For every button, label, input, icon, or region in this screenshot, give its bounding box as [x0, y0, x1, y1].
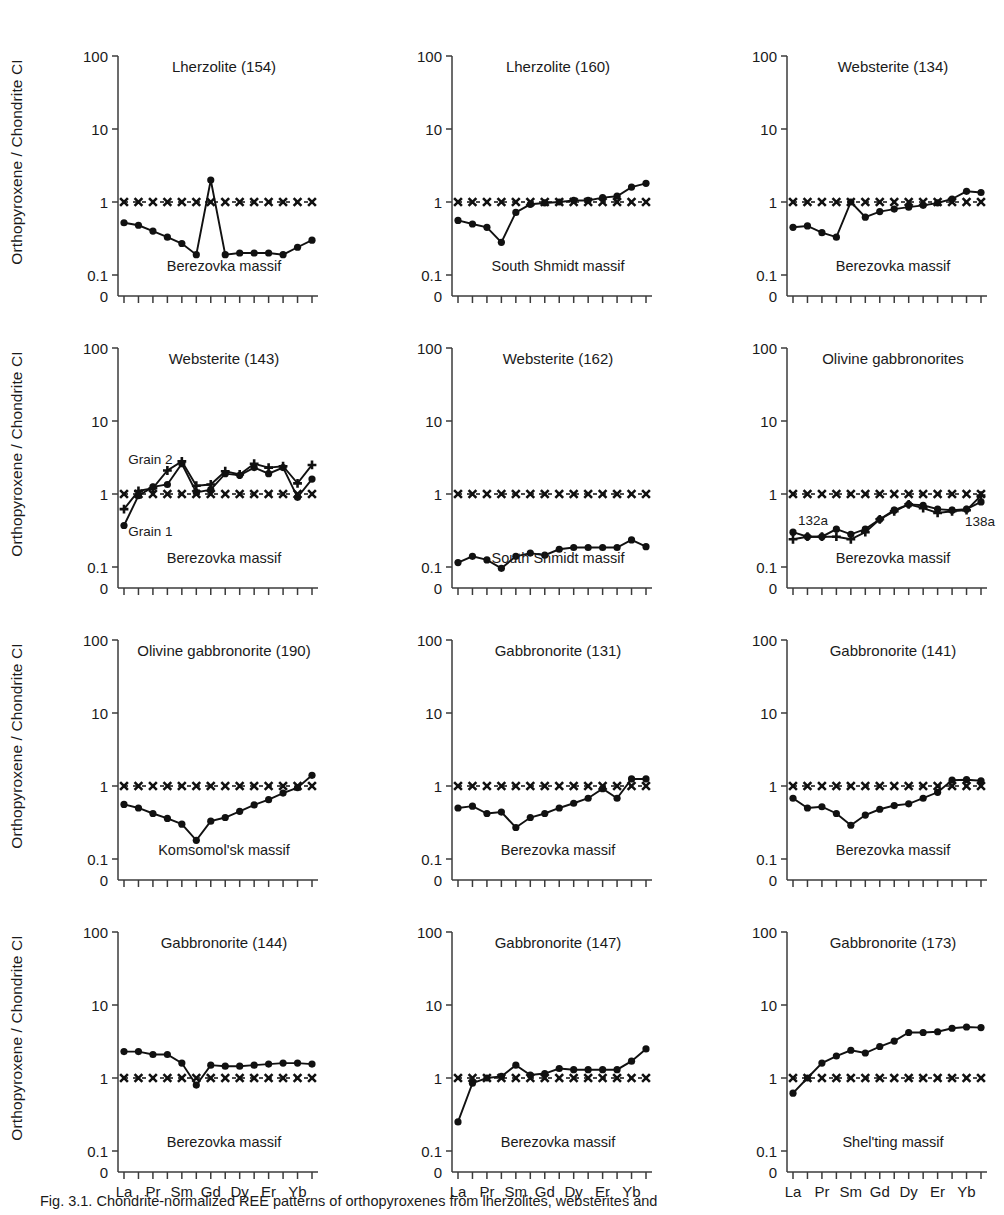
reference-line-series — [454, 490, 650, 498]
chart-panel: Orthopyroxene / Chondrite CI1001010.10Ga… — [0, 904, 334, 1204]
panel-massif-label: Berezovka massif — [836, 842, 951, 858]
panel-massif-label: South Shmidt massif — [492, 258, 626, 274]
y-tick-label: 0.1 — [756, 559, 777, 576]
y-tick-label: 10 — [425, 121, 442, 138]
y-tick-label: 10 — [425, 997, 442, 1014]
panel-plot: 1001010.10Websterite (143)Berezovka mass… — [0, 320, 334, 612]
y-tick-label: 1 — [769, 778, 777, 795]
panel-massif-label: Berezovka massif — [836, 258, 951, 274]
y-axis-title-text: Orthopyroxene / Chondrite CI — [8, 351, 26, 556]
panel-annotation: Grain 2 — [128, 452, 172, 467]
y-tick-label-zero: 0 — [769, 1164, 777, 1181]
y-tick-label-zero: 0 — [434, 288, 442, 305]
y-tick-label: 100 — [83, 632, 108, 649]
y-tick-label: 0.1 — [87, 851, 108, 868]
panel-massif-label: Berezovka massif — [501, 1134, 616, 1150]
y-tick-label: 100 — [417, 340, 442, 357]
panel-massif-label: Berezovka massif — [167, 1134, 282, 1150]
y-tick-label: 100 — [83, 48, 108, 65]
panel-title: Lherzolite (160) — [506, 58, 610, 75]
y-tick-label: 10 — [91, 997, 108, 1014]
y-tick-label-zero: 0 — [100, 580, 108, 597]
chart-panel: Orthopyroxene / Chondrite CI1001010.10We… — [0, 320, 334, 612]
chart-panel: 1001010.10Lherzolite (160)South Shmidt m… — [334, 28, 669, 320]
panel-plot: 1001010.10Gabbronorite (144)Berezovka ma… — [0, 904, 334, 1204]
chart-panel: 1001010.10Gabbronorite (173)Shel'ting ma… — [669, 904, 1004, 1204]
reference-line-series — [120, 782, 316, 790]
y-tick-label-zero: 0 — [434, 1164, 442, 1181]
y-tick-label-zero: 0 — [100, 872, 108, 889]
panel-title: Lherzolite (154) — [172, 58, 276, 75]
y-tick-label: 0.1 — [421, 267, 442, 284]
panel-plot: 1001010.10Lherzolite (160)South Shmidt m… — [334, 28, 668, 320]
panel-massif-label: South Shmidt massif — [492, 550, 626, 566]
panel-title: Gabbronorite (141) — [830, 642, 957, 659]
y-tick-label: 0.1 — [421, 851, 442, 868]
y-tick-label: 0.1 — [756, 1143, 777, 1160]
y-axis-title-text: Orthopyroxene / Chondrite CI — [8, 59, 26, 264]
y-tick-label: 10 — [91, 705, 108, 722]
reference-line-series — [454, 198, 650, 206]
panel-plot: 1001010.10Olivine gabbronoritesBerezovka… — [669, 320, 1003, 612]
panel-massif-label: Berezovka massif — [167, 550, 282, 566]
chart-panel: 1001010.10Gabbronorite (131)Berezovka ma… — [334, 612, 669, 904]
panel-plot: 1001010.10Gabbronorite (173)Shel'ting ma… — [669, 904, 1003, 1204]
y-tick-label: 10 — [760, 705, 777, 722]
panel-title: Websterite (143) — [169, 350, 280, 367]
panel-massif-label: Berezovka massif — [836, 550, 951, 566]
y-tick-label: 100 — [752, 632, 777, 649]
y-tick-label-zero: 0 — [769, 580, 777, 597]
chart-panel: Orthopyroxene / Chondrite CI1001010.10Lh… — [0, 28, 334, 320]
panel-grid: Orthopyroxene / Chondrite CI1001010.10Lh… — [0, 28, 1004, 1204]
y-axis-title: Orthopyroxene / Chondrite CI — [4, 904, 30, 1172]
y-tick-label: 10 — [91, 413, 108, 430]
y-tick-label: 0.1 — [87, 267, 108, 284]
y-tick-label: 10 — [425, 705, 442, 722]
y-tick-label-zero: 0 — [769, 288, 777, 305]
y-tick-label: 100 — [752, 924, 777, 941]
y-tick-label: 1 — [434, 778, 442, 795]
panel-title: Websterite (162) — [503, 350, 614, 367]
y-tick-label-zero: 0 — [100, 1164, 108, 1181]
reference-line-series — [120, 490, 316, 498]
y-tick-label: 1 — [769, 486, 777, 503]
y-tick-label: 100 — [752, 48, 777, 65]
panel-plot: 1001010.10Gabbronorite (147)Berezovka ma… — [334, 904, 668, 1204]
panel-title: Websterite (134) — [838, 58, 949, 75]
reference-line-series — [120, 1074, 316, 1082]
y-tick-label: 1 — [100, 194, 108, 211]
reference-line-series — [120, 198, 316, 206]
y-tick-label: 10 — [760, 997, 777, 1014]
panel-title: Gabbronorite (131) — [495, 642, 622, 659]
y-tick-label: 100 — [417, 632, 442, 649]
y-tick-label: 0.1 — [421, 559, 442, 576]
y-tick-label: 1 — [100, 1070, 108, 1087]
y-tick-label: 0.1 — [421, 1143, 442, 1160]
y-tick-label: 100 — [752, 340, 777, 357]
reference-line-series — [789, 782, 985, 790]
y-tick-label-zero: 0 — [434, 872, 442, 889]
panel-title: Gabbronorite (173) — [830, 934, 957, 951]
panel-title: Gabbronorite (147) — [495, 934, 622, 951]
y-tick-label-zero: 0 — [100, 288, 108, 305]
chart-panel: Orthopyroxene / Chondrite CI1001010.10Ol… — [0, 612, 334, 904]
reference-line-series — [454, 782, 650, 790]
y-tick-label: 10 — [760, 413, 777, 430]
panel-massif-label: Berezovka massif — [167, 258, 282, 274]
data-series — [789, 188, 984, 241]
y-tick-label: 10 — [760, 121, 777, 138]
y-tick-label: 1 — [434, 194, 442, 211]
figure-caption: Fig. 3.1. Chondrite-normalized REE patte… — [40, 1192, 970, 1212]
y-tick-label: 1 — [769, 1070, 777, 1087]
y-axis-title-text: Orthopyroxene / Chondrite CI — [8, 643, 26, 848]
y-tick-label: 1 — [100, 486, 108, 503]
y-tick-label: 1 — [769, 194, 777, 211]
y-tick-label: 0.1 — [87, 1143, 108, 1160]
data-series — [454, 180, 649, 246]
y-axis-title-text: Orthopyroxene / Chondrite CI — [8, 935, 26, 1140]
panel-title: Olivine gabbronorites — [822, 350, 964, 367]
data-series — [454, 1045, 649, 1125]
y-tick-label: 1 — [434, 486, 442, 503]
panel-plot: 1001010.10Websterite (134)Berezovka mass… — [669, 28, 1003, 320]
y-tick-label: 0.1 — [756, 267, 777, 284]
